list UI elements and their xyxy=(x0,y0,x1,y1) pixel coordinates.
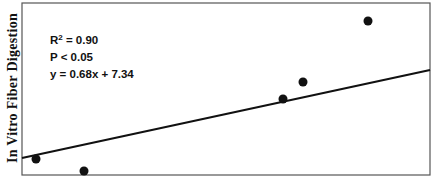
y-axis-label: In Vitro Fiber Digestion xyxy=(5,3,21,173)
regression-stats: R2 = 0.90 P < 0.05 y = 0.68x + 7.34 xyxy=(50,32,134,83)
data-point xyxy=(32,155,41,164)
data-point xyxy=(279,95,288,104)
data-point xyxy=(364,17,373,26)
plot-area xyxy=(0,0,433,185)
p-value: P < 0.05 xyxy=(50,49,134,66)
data-point xyxy=(299,78,308,87)
scatter-chart: In Vitro Fiber Digestion R2 = 0.90 P < 0… xyxy=(0,0,433,185)
data-point xyxy=(80,167,89,176)
r-squared: R2 = 0.90 xyxy=(50,32,134,49)
regression-equation: y = 0.68x + 7.34 xyxy=(50,66,134,83)
plot-frame xyxy=(22,3,430,175)
